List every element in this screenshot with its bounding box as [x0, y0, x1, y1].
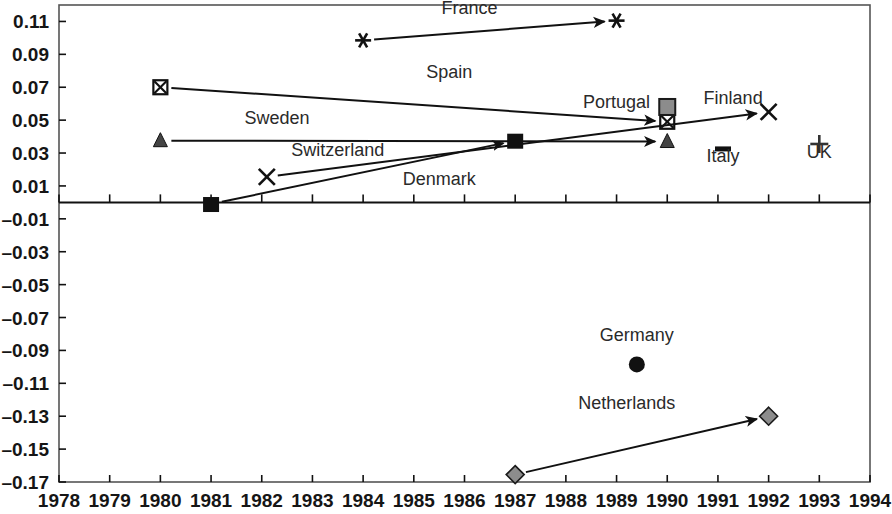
- trend-arrow: [374, 22, 605, 40]
- data-point-netherlands: [760, 407, 778, 425]
- series-label-finland: Finland: [704, 88, 763, 108]
- x-tick-label: 1986: [443, 490, 485, 511]
- y-tick-label: 0.03: [12, 143, 49, 164]
- y-axis-ticks: 0.110.090.070.050.030.01–0.01–0.03–0.05–…: [1, 11, 66, 493]
- y-tick-label: –0.09: [1, 340, 49, 361]
- y-tick-label: 0.09: [12, 44, 49, 65]
- x-tick-label: 1987: [494, 490, 536, 511]
- x-tick-label: 1992: [747, 490, 789, 511]
- x-tick-label: 1981: [190, 490, 233, 511]
- data-point-denmark: [203, 197, 219, 212]
- y-tick-label: –0.01: [1, 209, 49, 230]
- scatter-chart: 0.110.090.070.050.030.01–0.01–0.03–0.05–…: [0, 0, 892, 514]
- y-tick-label: 0.11: [13, 11, 49, 32]
- x-tick-label: 1994: [849, 490, 892, 511]
- data-point-sweden: [660, 134, 674, 148]
- series-label-spain: Spain: [426, 62, 472, 82]
- x-tick-label: 1980: [139, 490, 181, 511]
- series-germany: [629, 356, 645, 372]
- x-tick-label: 1985: [393, 490, 436, 511]
- trend-arrow: [171, 141, 655, 142]
- series-label-uk: UK: [807, 142, 832, 162]
- series-label-portugal: Portugal: [583, 92, 650, 112]
- x-tick-label: 1984: [342, 490, 385, 511]
- series-label-france: France: [442, 0, 498, 18]
- series-france: [355, 14, 624, 48]
- data-point-netherlands: [506, 466, 524, 484]
- x-tick-label: 1989: [595, 490, 637, 511]
- plot-area: 0.110.090.070.050.030.01–0.01–0.03–0.05–…: [0, 0, 892, 514]
- y-tick-label: 0.07: [12, 77, 49, 98]
- y-tick-label: 0.01: [12, 176, 49, 197]
- data-point-sweden: [153, 133, 167, 147]
- series-finland: [659, 99, 675, 115]
- data-point-switzerland: [761, 104, 777, 120]
- y-tick-label: –0.03: [1, 242, 49, 263]
- series-labels: FranceSpainSwedenSwitzerlandDenmarkPortu…: [244, 0, 831, 413]
- series-layer: [153, 14, 828, 484]
- data-point-finland: [659, 99, 675, 115]
- x-tick-label: 1990: [646, 490, 688, 511]
- data-point-switzerland: [259, 169, 275, 185]
- data-point-spain: [660, 115, 674, 129]
- series-label-denmark: Denmark: [403, 169, 477, 189]
- series-label-italy: Italy: [706, 146, 739, 166]
- x-tick-label: 1991: [697, 490, 740, 511]
- data-point-france: [609, 14, 625, 28]
- series-label-netherlands: Netherlands: [578, 393, 675, 413]
- y-tick-label: –0.15: [1, 439, 49, 460]
- y-tick-label: –0.13: [1, 406, 49, 427]
- x-axis-ticks: 1978197919801981198219831984198519861987…: [38, 194, 892, 511]
- data-point-germany: [629, 356, 645, 372]
- series-label-switzerland: Switzerland: [291, 140, 384, 160]
- series-label-germany: Germany: [600, 325, 674, 345]
- trend-arrow: [526, 419, 757, 472]
- data-point-spain: [153, 80, 167, 94]
- x-tick-label: 1993: [798, 490, 840, 511]
- x-tick-label: 1983: [291, 490, 333, 511]
- x-tick-label: 1979: [89, 490, 131, 511]
- series-netherlands: [506, 407, 777, 483]
- data-point-denmark: [507, 134, 523, 149]
- x-tick-label: 1982: [241, 490, 283, 511]
- y-tick-label: –0.11: [3, 373, 50, 394]
- series-label-sweden: Sweden: [244, 108, 309, 128]
- y-tick-label: –0.05: [1, 275, 49, 296]
- y-tick-label: 0.05: [12, 110, 49, 131]
- x-tick-label: 1978: [38, 490, 80, 511]
- y-tick-label: –0.07: [1, 308, 49, 329]
- data-point-france: [355, 33, 371, 47]
- x-tick-label: 1988: [545, 490, 587, 511]
